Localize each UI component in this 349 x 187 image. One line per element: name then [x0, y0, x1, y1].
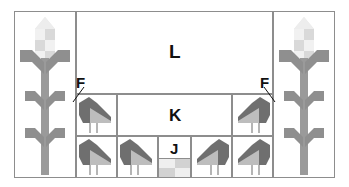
region-K-label: K — [169, 107, 181, 124]
diagram-canvas: L K — [0, 0, 349, 187]
bird-bottom-inner-left — [118, 137, 157, 177]
corn-stalk — [41, 58, 49, 175]
bird-icon — [79, 139, 111, 175]
bird-icon — [197, 139, 229, 175]
four-patch-cell-2 — [175, 159, 191, 168]
region-L-label: L — [169, 42, 181, 61]
bird-bottom-far-right — [233, 137, 272, 177]
bird-icon — [238, 139, 270, 175]
right-corn-motif — [276, 14, 332, 175]
region-J-label: J — [170, 141, 178, 156]
bird-bottom-far-left — [77, 137, 116, 177]
four-patch-cell-3 — [159, 168, 175, 177]
callout-F-right-leader — [259, 86, 279, 104]
four-patch-cell-4 — [175, 168, 191, 177]
four-patch-icon — [159, 159, 190, 177]
callout-F-left-leader — [70, 86, 90, 104]
left-corn-motif — [17, 14, 73, 175]
bird-bottom-inner-right — [192, 137, 231, 177]
four-patch-cell-1 — [159, 159, 175, 168]
bird-icon — [120, 139, 152, 175]
corn-stalk — [300, 58, 308, 175]
